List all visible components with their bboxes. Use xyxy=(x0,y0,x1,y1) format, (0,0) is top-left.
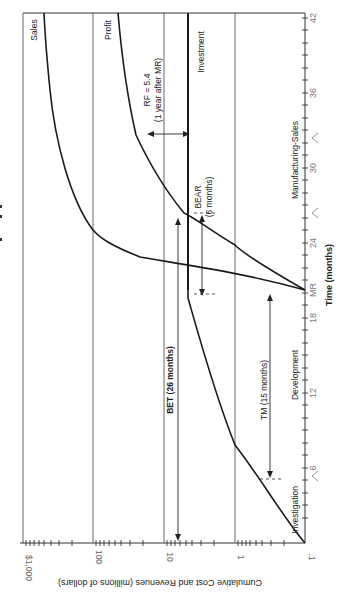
rf-label-2: (1 year after MR) xyxy=(153,58,163,122)
y-tick-100: 100 xyxy=(94,550,104,564)
tm-arrowhead-bottom-icon xyxy=(267,471,273,478)
grid-lines xyxy=(23,13,305,543)
lifecycle-chart: 6 12 18 MR 24 30 36 42 Time (months) .1 … xyxy=(0,0,344,593)
bear-label-1: BEAR xyxy=(193,185,203,208)
x-axis-title: Time (months) xyxy=(324,244,334,306)
bear-label-2: (6 months) xyxy=(204,177,214,218)
investment-label: Investment xyxy=(196,31,206,73)
rf-label-1: RF = 5.4 xyxy=(142,73,152,106)
y-tick-1000: $1,000 xyxy=(24,555,34,581)
phase-marker-development xyxy=(312,208,318,218)
rf-arrowhead-left-icon xyxy=(147,131,154,137)
x-tick-mr: MR xyxy=(308,283,318,297)
bet-label: BET (26 months) xyxy=(165,346,175,414)
curves xyxy=(44,13,305,543)
phase-marker-investigation xyxy=(312,471,318,481)
y-axis-title: Cumulative Cost and Revenues (millions o… xyxy=(58,578,262,588)
investment-curve xyxy=(188,290,305,543)
y-tick-0.1: .1 xyxy=(307,553,317,560)
sales-curve xyxy=(44,13,305,290)
bet-arrowhead-top-icon xyxy=(175,218,181,225)
x-tick-30: 30 xyxy=(308,163,318,173)
y-tick-1: 1 xyxy=(236,555,246,560)
x-tick-18: 18 xyxy=(308,313,318,323)
bet-arrowhead-bottom-icon xyxy=(175,534,181,541)
value-axis: .1 1 10 100 $1,000 Cumulative Cost and R… xyxy=(20,540,317,588)
development-label: Development xyxy=(290,349,300,400)
sales-label: Sales xyxy=(29,19,39,40)
y-tick-10: 10 xyxy=(165,552,175,562)
investigation-label: Investigation xyxy=(290,486,300,534)
tm-label: TM (15 months) xyxy=(259,360,269,420)
annotations: BET (26 months) BEAR (6 months) TM (15 m… xyxy=(142,58,282,541)
x-tick-24: 24 xyxy=(308,238,318,248)
title-fragments xyxy=(0,205,2,241)
x-tick-6: 6 xyxy=(308,465,318,470)
x-tick-12: 12 xyxy=(308,388,318,398)
bear-arrowhead-bottom-icon xyxy=(199,289,205,296)
profit-curve xyxy=(118,13,305,290)
x-tick-36: 36 xyxy=(308,88,318,98)
curve-labels: Sales Profit Investment Investigation De… xyxy=(29,19,300,534)
tm-arrowhead-top-icon xyxy=(267,294,273,301)
time-axis: 6 12 18 MR 24 30 36 42 Time (months) xyxy=(302,13,334,543)
phase-marker-manufacturing xyxy=(312,133,318,143)
x-tick-42: 42 xyxy=(308,13,318,23)
profit-label: Profit xyxy=(103,19,113,39)
manufacturing-label: Manufacturing-Sales xyxy=(290,121,300,199)
